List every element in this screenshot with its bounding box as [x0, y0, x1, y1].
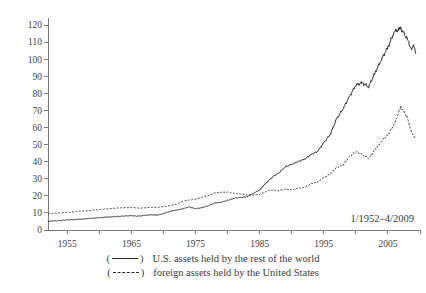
legend-close-paren-1: ) — [141, 267, 145, 278]
date-range-annotation: 1/1952–4/2009 — [350, 213, 414, 224]
x-tick-label: 1965 — [122, 239, 141, 249]
legend-label-us-assets: U.S. assets held by the rest of the worl… — [153, 253, 320, 264]
legend-item-foreign-assets: () foreign assets held by the United Sta… — [0, 266, 426, 280]
y-tick-label: 50 — [33, 140, 43, 150]
y-tick-label: 60 — [33, 123, 43, 133]
y-tick-label: 70 — [33, 106, 43, 116]
legend-close-paren-0: ) — [140, 253, 144, 264]
x-tick-label: 1985 — [250, 239, 269, 249]
y-tick-label: 120 — [28, 20, 43, 30]
legend-key-dashed: () — [107, 266, 153, 280]
y-tick-label: 10 — [33, 208, 43, 218]
legend-key-solid: () — [107, 252, 153, 266]
x-tick-label: 1955 — [58, 239, 77, 249]
series-line-us-assets — [48, 27, 416, 222]
y-tick-label: 30 — [33, 174, 43, 184]
y-tick-label: 0 — [37, 225, 42, 235]
x-tick-label: 2005 — [378, 239, 397, 249]
legend-label-foreign-assets: foreign assets held by the United States — [153, 267, 319, 278]
y-tick-label: 90 — [33, 72, 43, 82]
legend-open-paren-0: ( — [107, 253, 111, 264]
y-tick-label: 20 — [33, 191, 43, 201]
legend-item-us-assets: () U.S. assets held by the rest of the w… — [0, 252, 426, 266]
chart-legend: () U.S. assets held by the rest of the w… — [0, 252, 426, 280]
solid-line-swatch-icon — [112, 258, 138, 259]
x-tick-label: 1975 — [186, 239, 205, 249]
x-tick-label: 1995 — [314, 239, 333, 249]
legend-open-paren-1: ( — [107, 267, 111, 278]
series-layer — [48, 27, 416, 222]
x-axis: 195519651975198519952005 — [47, 230, 420, 249]
dashed-line-swatch-icon — [113, 272, 139, 273]
y-tick-label: 110 — [28, 37, 42, 47]
line-chart: 0102030405060708090100110120 19551965197… — [0, 0, 426, 293]
chart-figure: 0102030405060708090100110120 19551965197… — [0, 0, 426, 293]
y-tick-label: 80 — [33, 89, 43, 99]
y-axis: 0102030405060708090100110120 — [28, 18, 48, 235]
series-line-foreign-assets — [48, 106, 416, 214]
y-tick-label: 40 — [33, 157, 43, 167]
y-tick-label: 100 — [28, 55, 43, 65]
